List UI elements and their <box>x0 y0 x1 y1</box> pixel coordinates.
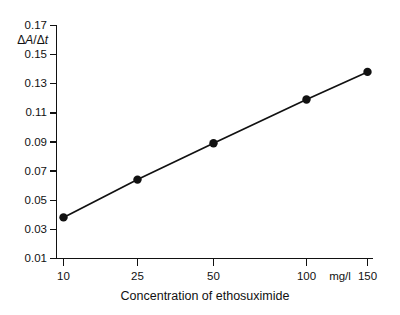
y-tick-label: 0.15 <box>25 48 47 60</box>
y-axis-label-t: t <box>45 33 49 47</box>
y-tick-label: 0.01 <box>25 252 47 264</box>
x-tick-label: 100 <box>297 270 316 282</box>
y-axis-label-delta2: Δ <box>37 33 45 47</box>
y-tick-label: 0.17 <box>25 19 47 31</box>
y-axis-label: ΔA/Δt <box>17 33 48 47</box>
x-tick-label: 50 <box>207 270 220 282</box>
y-axis-tick-labels: 0.17 0.15 0.13 0.11 0.09 0.07 0.05 0.03 … <box>25 19 47 264</box>
y-tick-label: 0.03 <box>25 223 47 235</box>
y-tick-label: 0.05 <box>25 194 47 206</box>
y-axis-ticks <box>50 26 57 259</box>
y-tick-label: 0.11 <box>25 106 47 118</box>
data-point-marker <box>302 95 310 103</box>
y-axis-label-a: A <box>24 33 33 47</box>
x-tick-label: 10 <box>57 270 70 282</box>
x-axis-label: Concentration of ethosuximide <box>121 289 290 303</box>
data-point-marker <box>59 213 67 221</box>
chart-figure: 0.17 0.15 0.13 0.11 0.09 0.07 0.05 0.03 … <box>0 0 400 315</box>
y-tick-label: 0.09 <box>25 136 47 148</box>
y-axis-label-delta1: Δ <box>17 33 25 47</box>
y-tick-label: 0.13 <box>25 77 47 89</box>
data-point-marker <box>209 139 217 147</box>
x-axis-ticks <box>64 259 368 267</box>
data-point-marker <box>363 68 371 76</box>
y-tick-label: 0.07 <box>25 165 47 177</box>
x-tick-label: 150 <box>358 270 377 282</box>
line-chart-canvas: 0.17 0.15 0.13 0.11 0.09 0.07 0.05 0.03 … <box>0 0 400 315</box>
x-axis-unit-label: mg/l <box>329 270 351 282</box>
x-tick-label: 25 <box>131 270 144 282</box>
data-point-marker <box>133 175 141 183</box>
